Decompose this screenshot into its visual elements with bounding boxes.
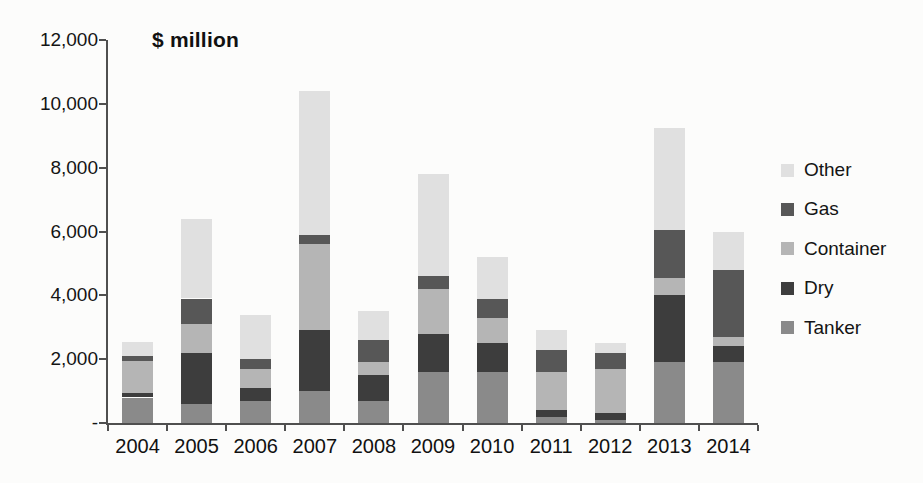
bar-segment-gas [595, 353, 626, 369]
bar-segment-tanker [418, 372, 449, 423]
bar-segment-dry [654, 295, 685, 362]
bar-segment-tanker [654, 362, 685, 423]
y-axis-tick [99, 294, 106, 296]
bar-segment-container [477, 318, 508, 344]
legend-label: Tanker [804, 317, 861, 339]
y-axis-tick [99, 167, 106, 169]
legend-swatch-other-icon [781, 164, 794, 177]
bar-segment-other [358, 311, 389, 340]
bar-segment-tanker [713, 362, 744, 423]
y-axis-tick [99, 39, 106, 41]
x-axis-label: 2014 [693, 434, 764, 458]
x-axis-tick [107, 425, 109, 431]
x-axis-tick [580, 425, 582, 431]
bar-segment-dry [595, 413, 626, 419]
y-axis-label: 12,000 [16, 29, 98, 51]
legend-swatch-gas-icon [781, 203, 794, 216]
bar-segment-tanker [181, 404, 212, 423]
x-axis-tick [343, 425, 345, 431]
x-axis-tick [225, 425, 227, 431]
bar-segment-gas [181, 299, 212, 325]
bar-segment-gas [240, 359, 271, 369]
bar-segment-dry [122, 393, 153, 398]
legend-swatch-tanker-icon [781, 321, 794, 334]
x-axis-tick [402, 425, 404, 431]
bar-segment-dry [536, 410, 567, 416]
legend-label: Other [804, 159, 852, 181]
bar-segment-dry [477, 343, 508, 372]
y-axis-tick [99, 103, 106, 105]
bar-segment-container [713, 337, 744, 347]
y-axis-tick [99, 422, 106, 424]
chart-title: $ million [152, 28, 239, 52]
bar-segment-container [181, 324, 212, 353]
bar-segment-dry [713, 346, 744, 362]
bar-segment-tanker [240, 401, 271, 423]
bar-segment-container [536, 372, 567, 410]
x-axis-line [106, 423, 758, 425]
bar-segment-other [299, 91, 330, 235]
bar-segment-dry [181, 353, 212, 404]
bar-segment-dry [358, 375, 389, 401]
y-axis-line [106, 40, 108, 423]
y-axis-label: 2,000 [16, 348, 98, 370]
bar-segment-tanker [299, 391, 330, 423]
bar-segment-tanker [122, 398, 153, 424]
bar-segment-other [181, 219, 212, 299]
legend-label: Container [804, 238, 886, 260]
y-axis-tick [99, 231, 106, 233]
bar-segment-other [713, 232, 744, 270]
bar-segment-container [418, 289, 449, 334]
legend-swatch-dry-icon [781, 282, 794, 295]
bar-segment-other [536, 330, 567, 349]
bar-segment-gas [122, 356, 153, 361]
bar-segment-gas [299, 235, 330, 245]
bar-segment-gas [536, 350, 567, 372]
bar-segment-other [240, 315, 271, 360]
legend-item-container: Container [781, 238, 886, 260]
bar-segment-dry [240, 388, 271, 401]
y-axis-label: 4,000 [16, 284, 98, 306]
bar-segment-gas [418, 276, 449, 289]
bar-segment-gas [358, 340, 389, 362]
bar-segment-tanker [595, 420, 626, 423]
bar-segment-dry [418, 334, 449, 372]
y-axis-label: 10,000 [16, 93, 98, 115]
x-axis-tick [284, 425, 286, 431]
bar-segment-other [654, 128, 685, 230]
y-axis-label: 6,000 [16, 221, 98, 243]
legend-item-other: Other [781, 159, 852, 181]
bar-segment-container [358, 362, 389, 375]
x-axis-tick [698, 425, 700, 431]
x-axis-tick [521, 425, 523, 431]
bar-segment-container [122, 361, 153, 393]
x-axis-tick [166, 425, 168, 431]
bar-segment-tanker [358, 401, 389, 423]
bar-segment-container [240, 369, 271, 388]
bar-segment-container [654, 278, 685, 296]
bar-segment-dry [299, 330, 330, 391]
legend-label: Dry [804, 277, 834, 299]
legend-label: Gas [804, 198, 839, 220]
y-axis-label: 8,000 [16, 157, 98, 179]
bar-segment-other [122, 342, 153, 356]
bar-segment-gas [477, 299, 508, 318]
bar-segment-container [299, 244, 330, 330]
bar-segment-other [418, 174, 449, 276]
x-axis-tick [462, 425, 464, 431]
x-axis-tick [757, 425, 759, 431]
bar-segment-other [477, 257, 508, 299]
y-axis-label: - [16, 412, 98, 434]
bar-segment-gas [713, 270, 744, 337]
x-axis-tick [639, 425, 641, 431]
bar-segment-container [595, 369, 626, 414]
stacked-bar-chart-figure: $ million -2,0004,0006,0008,00010,00012,… [0, 0, 923, 483]
bar-segment-gas [654, 230, 685, 278]
bar-segment-tanker [477, 372, 508, 423]
bar-segment-tanker [536, 417, 567, 423]
bar-segment-other [595, 343, 626, 353]
legend-item-tanker: Tanker [781, 317, 861, 339]
legend-item-dry: Dry [781, 277, 834, 299]
y-axis-tick [99, 358, 106, 360]
legend-swatch-container-icon [781, 242, 794, 255]
